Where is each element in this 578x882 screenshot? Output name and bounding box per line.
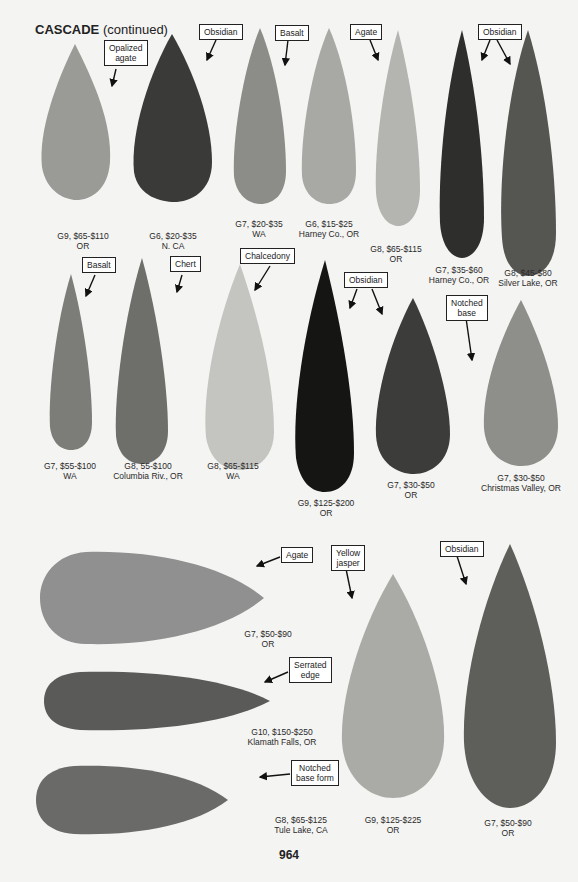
point-image-14 (36, 546, 266, 650)
material-label-agate: Agate (281, 547, 313, 563)
point-caption: G8, 55-$100Columbia Riv., OR (113, 461, 183, 481)
point-image-1 (36, 42, 114, 202)
point-image-16 (34, 760, 230, 840)
point-image-10 (200, 262, 280, 472)
point-image-9 (112, 256, 172, 466)
point-image-17 (338, 572, 448, 800)
material-label-yellow-jasper: Yellow jasper (331, 545, 365, 571)
catalog-page: CASCADE (continued) (0, 0, 578, 882)
material-label-chalcedony: Chalcedony (240, 248, 295, 264)
point-caption: G9, $125-$200OR (298, 498, 355, 518)
point-caption: G8, $65-$115OR (370, 244, 421, 264)
material-label-serrated-edge: Serrated edge (289, 657, 332, 683)
point-image-13 (480, 298, 562, 468)
point-caption: G8, $65-$125Tule Lake, CA (274, 815, 328, 835)
point-image-8 (46, 272, 96, 452)
point-image-6 (436, 28, 488, 260)
material-label-notched-base-form: Notched base form (291, 760, 339, 786)
material-label-basalt: Basalt (82, 257, 116, 273)
page-number: 964 (279, 848, 299, 862)
point-caption: G9, $65-$110OR (57, 231, 108, 251)
point-caption: G7, $55-$100WA (44, 461, 96, 481)
point-caption: G7, $50-$90OR (484, 818, 531, 838)
point-image-18 (460, 542, 560, 810)
point-caption: G7, $20-$35WA (235, 219, 282, 239)
point-image-12 (372, 296, 454, 476)
point-image-15 (40, 666, 272, 736)
point-image-7 (496, 28, 560, 278)
material-label-chert: Chert (170, 256, 201, 272)
point-image-3 (230, 26, 290, 206)
material-label-basalt: Basalt (275, 25, 309, 41)
material-label-opalized-agate: Opalized agate (104, 40, 148, 66)
point-caption: G7, $30-$50OR (387, 480, 434, 500)
point-caption: G8, $65-$115WA (207, 461, 258, 481)
point-caption: G6, $20-$35N. CA (149, 231, 196, 251)
point-image-11 (290, 258, 360, 494)
material-label-obsidian: Obsidian (478, 24, 522, 40)
material-label-obsidian: Obsidian (199, 24, 243, 40)
material-label-notched-base: Notched base (446, 295, 488, 321)
point-caption: G6, $15-$25Harney Co., OR (299, 219, 359, 239)
point-image-5 (372, 28, 424, 228)
point-image-4 (298, 26, 360, 206)
point-caption: G7, $35-$60Harney Co., OR (429, 265, 489, 285)
point-caption: G8, $45-$80Silver Lake, OR (498, 268, 558, 288)
point-caption: G10, $150-$250Klamath Falls, OR (248, 727, 317, 747)
point-caption: G9, $125-$225OR (365, 815, 422, 835)
point-caption: G7, $30-$50Christmas Valley, OR (481, 473, 561, 493)
material-label-obsidian: Obsidian (344, 272, 388, 288)
point-caption: G7, $50-$90OR (244, 629, 291, 649)
material-label-obsidian: Obsidian (440, 541, 484, 557)
material-label-agate: Agate (350, 24, 382, 40)
